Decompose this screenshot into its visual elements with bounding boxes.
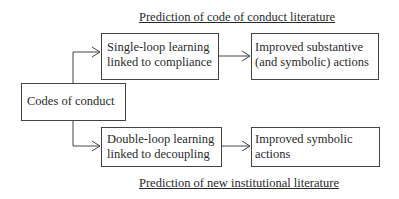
connector-to-double-loop [73, 120, 100, 146]
top-caption: Prediction of code of conduct literature [139, 10, 335, 25]
substantive-outcome-line1: Improved substantive [255, 40, 373, 55]
codes-of-conduct-label: Codes of conduct [27, 94, 120, 109]
substantive-outcome-box: Improved substantive (and symbolic) acti… [251, 33, 379, 80]
single-loop-box: Single-loop learning linked to complianc… [101, 33, 219, 80]
single-loop-line2: linked to compliance [107, 55, 213, 70]
codes-of-conduct-box: Codes of conduct [21, 83, 126, 121]
double-loop-line1: Double-loop learning [107, 132, 216, 147]
symbolic-outcome-line1: Improved symbolic [255, 132, 374, 147]
bottom-caption: Prediction of new institutional literatu… [139, 176, 339, 191]
double-loop-box: Double-loop learning linked to decouplin… [101, 127, 222, 167]
symbolic-outcome-line2: actions [255, 147, 374, 162]
symbolic-outcome-box: Improved symbolic actions [251, 127, 380, 167]
double-loop-line2: linked to decoupling [107, 147, 216, 162]
single-loop-line1: Single-loop learning [107, 40, 213, 55]
substantive-outcome-line2: (and symbolic) actions [255, 55, 373, 70]
